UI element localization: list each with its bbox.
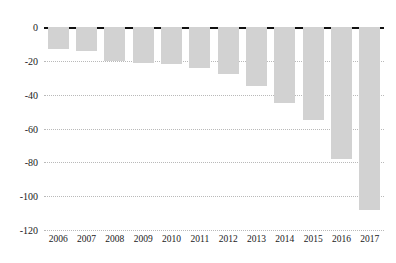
y-axis-tick-label: 0 bbox=[33, 22, 38, 33]
bar-2015 bbox=[303, 27, 324, 120]
x-axis-tick-label: 2006 bbox=[49, 234, 68, 244]
y-axis-tick-label: -80 bbox=[25, 157, 38, 168]
x-axis-tick-label: 2010 bbox=[162, 234, 181, 244]
y-axis-tick-label: -100 bbox=[20, 191, 38, 202]
y-axis-tick-label: -40 bbox=[25, 89, 38, 100]
x-axis-tick-label: 2016 bbox=[332, 234, 351, 244]
bar-2017 bbox=[359, 27, 380, 210]
x-axis-tick-label: 2013 bbox=[247, 234, 266, 244]
x-axis-tick-label: 2012 bbox=[219, 234, 238, 244]
bar-2011 bbox=[189, 27, 210, 68]
x-axis-tick-label: 2014 bbox=[275, 234, 294, 244]
bar-2006 bbox=[48, 27, 69, 49]
x-axis-tick-label: 2015 bbox=[304, 234, 323, 244]
x-axis-tick-label: 2007 bbox=[77, 234, 96, 244]
bar-2010 bbox=[161, 27, 182, 64]
y-axis-tick-labels: 0-20-40-60-80-100-120 bbox=[0, 27, 38, 230]
bar-2016 bbox=[331, 27, 352, 159]
bar-chart: 0-20-40-60-80-100-120 200620072008200920… bbox=[0, 0, 396, 263]
y-axis-tick-label: -60 bbox=[25, 123, 38, 134]
gridline bbox=[44, 230, 384, 231]
x-axis-tick-label: 2009 bbox=[134, 234, 153, 244]
y-axis-tick-label: -20 bbox=[25, 55, 38, 66]
x-axis-tick-label: 2017 bbox=[360, 234, 379, 244]
bar-2008 bbox=[104, 27, 125, 61]
bar-2013 bbox=[246, 27, 267, 86]
x-axis-tick-label: 2011 bbox=[191, 234, 210, 244]
bars-layer bbox=[44, 27, 384, 230]
bar-2007 bbox=[76, 27, 97, 51]
x-axis-tick-label: 2008 bbox=[105, 234, 124, 244]
x-axis-tick-labels: 2006200720082009201020112012201320142015… bbox=[44, 234, 384, 254]
bar-2012 bbox=[218, 27, 239, 74]
bar-2014 bbox=[274, 27, 295, 103]
y-axis-tick-label: -120 bbox=[20, 225, 38, 236]
bar-2009 bbox=[133, 27, 154, 63]
